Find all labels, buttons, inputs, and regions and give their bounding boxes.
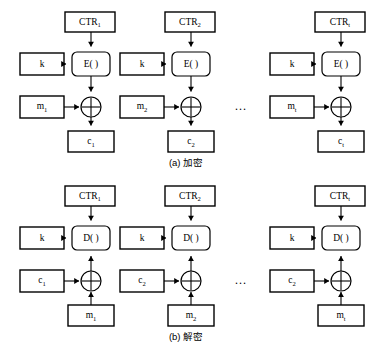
enc-ellipsis: … [235, 99, 248, 113]
enc-column-3: CTRt k E( ) mt ct [270, 12, 365, 152]
enc-key-label-1: k [40, 59, 45, 69]
enc-function-label-1: E( ) [84, 59, 99, 70]
enc-column-2: CTR2 k E( ) m2 c2 [120, 12, 215, 152]
dec-function-label-3: D( ) [333, 233, 349, 244]
enc-column-1: CTR1 k E( ) m1 c1 [20, 12, 115, 152]
enc-key-label-2: k [140, 59, 145, 69]
enc-counter-label-3: CTRt [330, 17, 350, 28]
dec-key-label-2: k [140, 233, 145, 243]
enc-key-label-3: k [290, 59, 295, 69]
dec-function-label-1: D( ) [83, 233, 99, 244]
decryption-caption: (b) 解密 [169, 331, 203, 342]
encryption-caption: (a) 加密 [169, 157, 203, 168]
dec-column-1: CTR1 k D( ) c1 m1 [20, 186, 115, 326]
dec-key-label-3: k [290, 233, 295, 243]
figure-canvas: CTR1 k E( ) m1 c1 CTR2 k E( ) m2 c2 [0, 0, 372, 345]
dec-column-3: CTRt k D( ) c2 mt [270, 186, 365, 326]
ctr-mode-diagram: CTR1 k E( ) m1 c1 CTR2 k E( ) m2 c2 [0, 0, 372, 345]
enc-function-label-2: E( ) [184, 59, 199, 70]
dec-ellipsis: … [235, 273, 248, 287]
enc-function-label-3: E( ) [334, 59, 349, 70]
dec-counter-label-3: CTRt [330, 191, 350, 202]
dec-column-2: CTR2 k D( ) c2 m2 [120, 186, 215, 326]
dec-function-label-2: D( ) [183, 233, 199, 244]
dec-key-label-1: k [40, 233, 45, 243]
